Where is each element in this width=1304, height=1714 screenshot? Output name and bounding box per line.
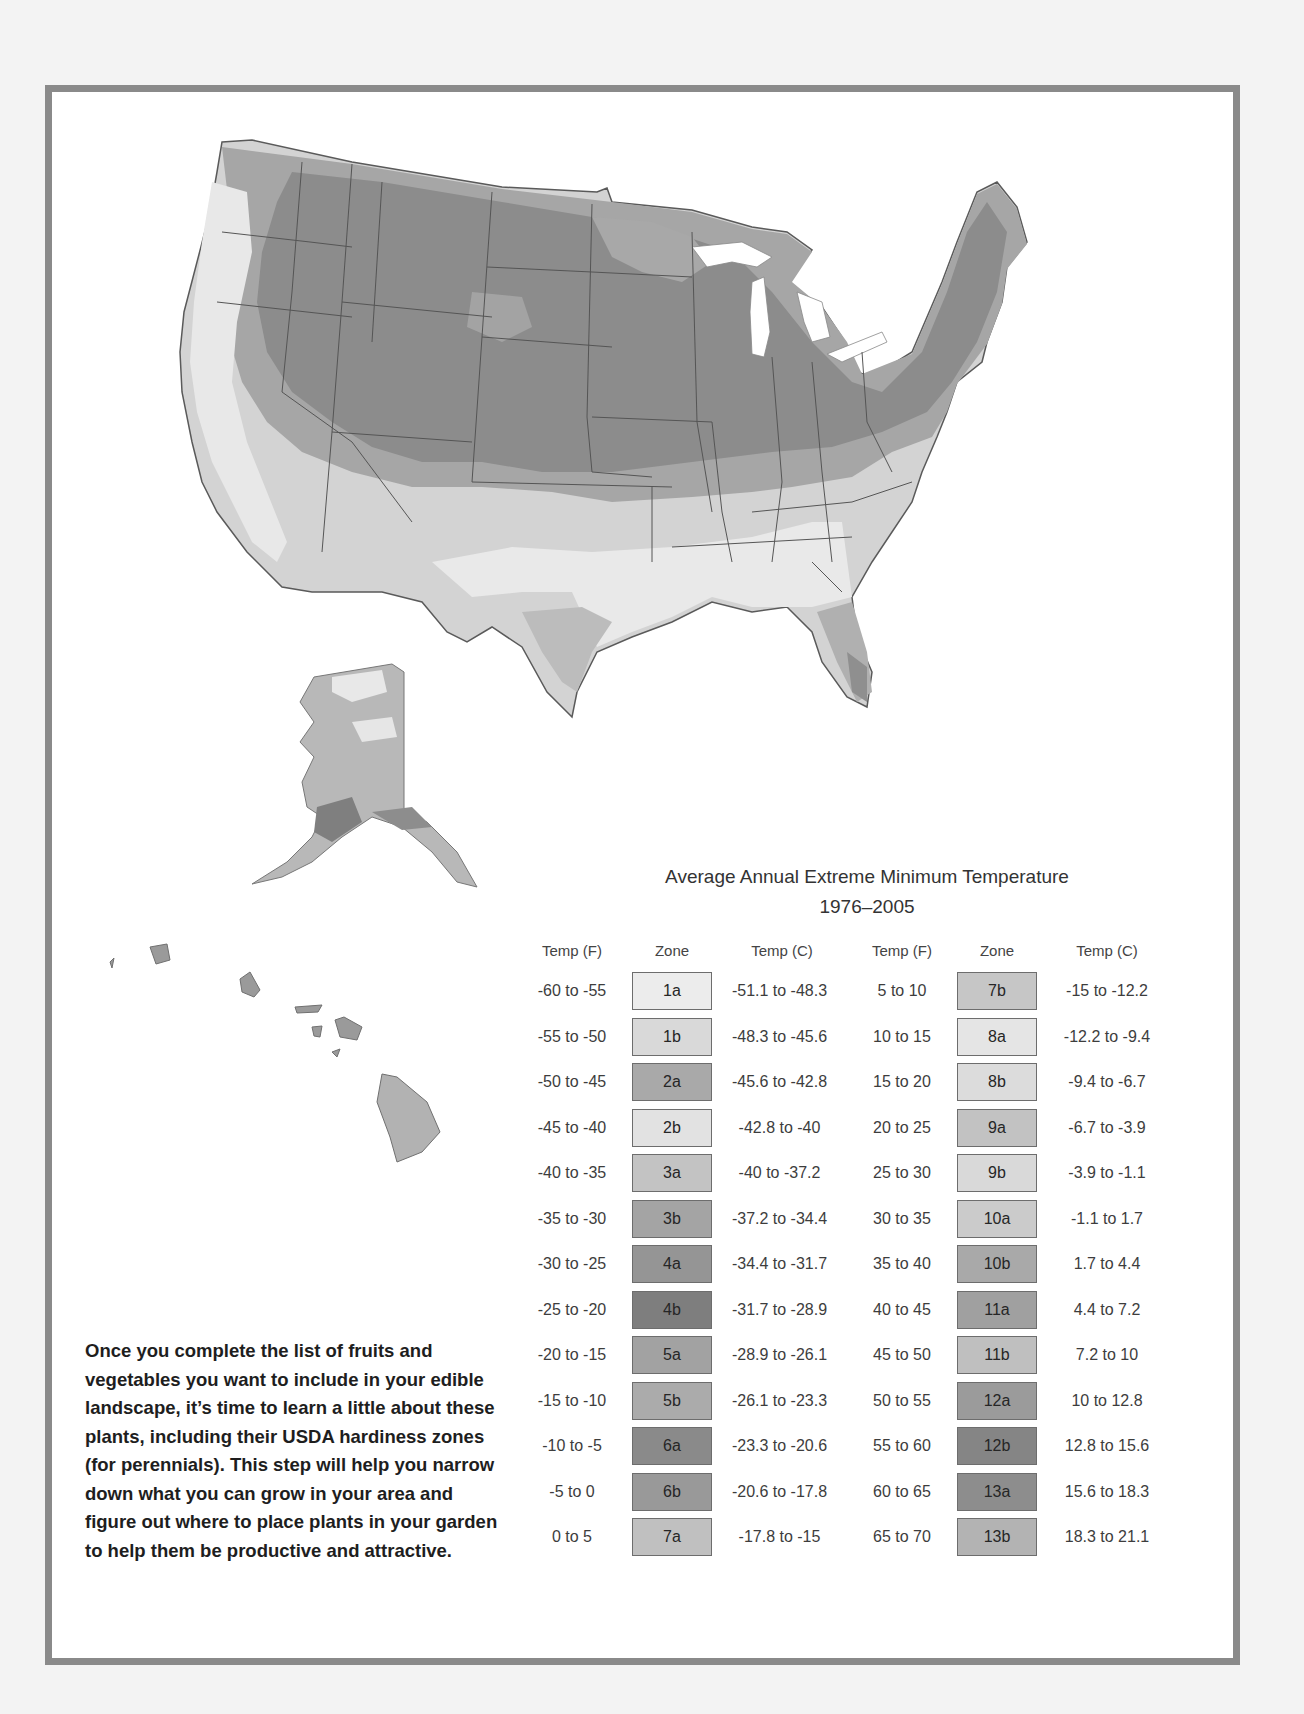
- island-maui: [335, 1017, 362, 1040]
- zone-swatch: 12a: [957, 1382, 1037, 1420]
- temp-f-value: -60 to -55: [527, 982, 617, 1000]
- header-temp-c-left: Temp (C): [722, 942, 842, 959]
- island-oahu: [240, 972, 260, 997]
- temp-f-value: -10 to -5: [527, 1437, 617, 1455]
- zone-swatch: 7b: [957, 972, 1037, 1010]
- temp-f-value: 0 to 5: [527, 1528, 617, 1546]
- temp-f-value: -40 to -35: [527, 1164, 617, 1182]
- hawaii-map: [110, 944, 440, 1162]
- zone-swatch: 4b: [632, 1291, 712, 1329]
- zone-swatch: 6a: [632, 1427, 712, 1465]
- zone-swatch: 6b: [632, 1473, 712, 1511]
- zone-swatch: 10a: [957, 1200, 1037, 1238]
- temp-c-value: 10 to 12.8: [1047, 1392, 1167, 1410]
- temp-f-value: -25 to -20: [527, 1301, 617, 1319]
- temp-f-value: -30 to -25: [527, 1255, 617, 1273]
- temp-f-value: -55 to -50: [527, 1028, 617, 1046]
- temp-f-value: 50 to 55: [857, 1392, 947, 1410]
- temp-c-value: -31.7 to -28.9: [717, 1301, 842, 1319]
- zone-swatch: 9b: [957, 1154, 1037, 1192]
- header-temp-f-right: Temp (F): [862, 942, 942, 959]
- temp-c-value: -40 to -37.2: [717, 1164, 842, 1182]
- zone-swatch: 8b: [957, 1063, 1037, 1101]
- zone-swatch: 12b: [957, 1427, 1037, 1465]
- zone-swatch: 3a: [632, 1154, 712, 1192]
- temp-c-value: -15 to -12.2: [1047, 982, 1167, 1000]
- temp-c-value: -42.8 to -40: [717, 1119, 842, 1137]
- zone-swatch: 5b: [632, 1382, 712, 1420]
- temp-c-value: -48.3 to -45.6: [717, 1028, 842, 1046]
- temp-c-value: -20.6 to -17.8: [717, 1483, 842, 1501]
- contiguous-us-map: [180, 140, 1027, 717]
- temp-f-value: 10 to 15: [857, 1028, 947, 1046]
- header-temp-f-left: Temp (F): [532, 942, 612, 959]
- zone-swatch: 4a: [632, 1245, 712, 1283]
- temp-f-value: 45 to 50: [857, 1346, 947, 1364]
- island-molokai: [295, 1005, 322, 1013]
- temp-f-value: -45 to -40: [527, 1119, 617, 1137]
- temp-c-value: 4.4 to 7.2: [1047, 1301, 1167, 1319]
- header-temp-c-right: Temp (C): [1052, 942, 1162, 959]
- zone-swatch: 11b: [957, 1336, 1037, 1374]
- island-hawaii: [377, 1074, 440, 1162]
- temp-f-value: 25 to 30: [857, 1164, 947, 1182]
- alaska-map: [252, 664, 477, 887]
- temp-c-value: 15.6 to 18.3: [1047, 1483, 1167, 1501]
- zone-swatch: 13a: [957, 1473, 1037, 1511]
- island-lanai: [312, 1026, 322, 1037]
- zone-swatch: 2b: [632, 1109, 712, 1147]
- temp-c-value: -26.1 to -23.3: [717, 1392, 842, 1410]
- temp-f-value: 55 to 60: [857, 1437, 947, 1455]
- temp-c-value: -6.7 to -3.9: [1047, 1119, 1167, 1137]
- hardiness-zone-map: Average Annual Extreme Minimum Temperatu…: [52, 92, 1233, 1658]
- legend-period: 1976–2005: [582, 892, 1152, 922]
- zone-swatch: 11a: [957, 1291, 1037, 1329]
- temp-c-value: -12.2 to -9.4: [1047, 1028, 1167, 1046]
- temp-f-value: -15 to -10: [527, 1392, 617, 1410]
- legend-title-text: Average Annual Extreme Minimum Temperatu…: [582, 862, 1152, 892]
- header-zone-left: Zone: [632, 942, 712, 959]
- header-zone-right: Zone: [957, 942, 1037, 959]
- temp-c-value: 1.7 to 4.4: [1047, 1255, 1167, 1273]
- temp-c-value: 18.3 to 21.1: [1047, 1528, 1167, 1546]
- temp-f-value: 5 to 10: [857, 982, 947, 1000]
- temp-f-value: 20 to 25: [857, 1119, 947, 1137]
- legend-title: Average Annual Extreme Minimum Temperatu…: [582, 862, 1152, 922]
- temp-c-value: -45.6 to -42.8: [717, 1073, 842, 1091]
- temp-f-value: -50 to -45: [527, 1073, 617, 1091]
- temp-c-value: 7.2 to 10: [1047, 1346, 1167, 1364]
- temp-f-value: 40 to 45: [857, 1301, 947, 1319]
- island-kauai: [150, 944, 170, 964]
- zone-swatch: 3b: [632, 1200, 712, 1238]
- temp-c-value: -34.4 to -31.7: [717, 1255, 842, 1273]
- temp-f-value: -35 to -30: [527, 1210, 617, 1228]
- temp-c-value: -28.9 to -26.1: [717, 1346, 842, 1364]
- temp-c-value: -51.1 to -48.3: [717, 982, 842, 1000]
- island-niihau: [110, 958, 114, 968]
- temp-f-value: 60 to 65: [857, 1483, 947, 1501]
- temp-f-value: 15 to 20: [857, 1073, 947, 1091]
- temp-c-value: -3.9 to -1.1: [1047, 1164, 1167, 1182]
- temp-c-value: -23.3 to -20.6: [717, 1437, 842, 1455]
- temp-c-value: -9.4 to -6.7: [1047, 1073, 1167, 1091]
- temp-f-value: 65 to 70: [857, 1528, 947, 1546]
- temp-f-value: 35 to 40: [857, 1255, 947, 1273]
- zone-swatch: 13b: [957, 1518, 1037, 1556]
- zone-swatch: 1a: [632, 972, 712, 1010]
- temp-c-value: -37.2 to -34.4: [717, 1210, 842, 1228]
- temp-c-value: -1.1 to 1.7: [1047, 1210, 1167, 1228]
- zone-swatch: 1b: [632, 1018, 712, 1056]
- temp-c-value: 12.8 to 15.6: [1047, 1437, 1167, 1455]
- zone-swatch: 10b: [957, 1245, 1037, 1283]
- zone-swatch: 7a: [632, 1518, 712, 1556]
- temp-f-value: -5 to 0: [527, 1483, 617, 1501]
- zone-swatch: 5a: [632, 1336, 712, 1374]
- zone-swatch: 9a: [957, 1109, 1037, 1147]
- intro-paragraph: Once you complete the list of fruits and…: [85, 1337, 505, 1565]
- island-kahoolawe: [332, 1049, 340, 1057]
- temp-c-value: -17.8 to -15: [717, 1528, 842, 1546]
- zone-swatch: 8a: [957, 1018, 1037, 1056]
- temp-f-value: 30 to 35: [857, 1210, 947, 1228]
- zone-swatch: 2a: [632, 1063, 712, 1101]
- temp-f-value: -20 to -15: [527, 1346, 617, 1364]
